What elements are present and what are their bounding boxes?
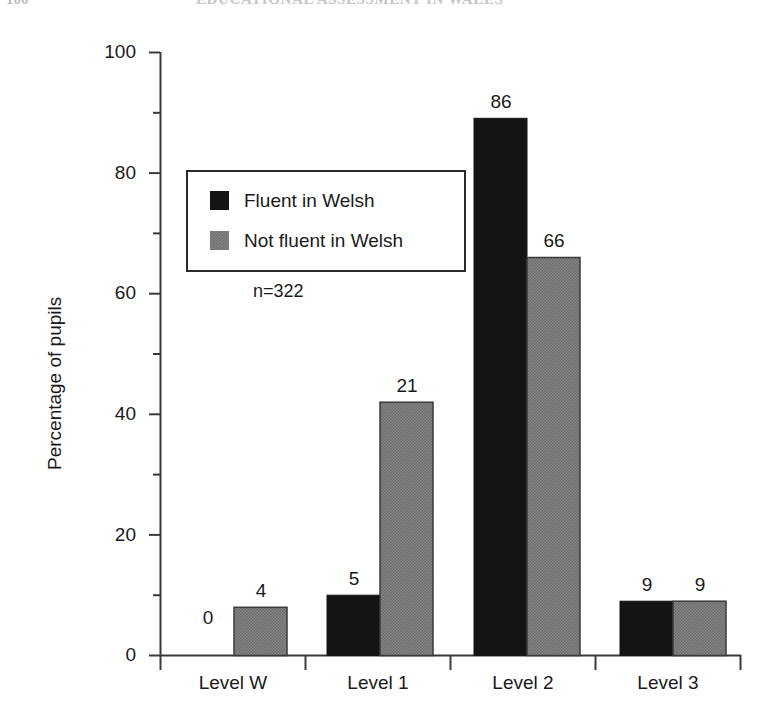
value-label-level-w-fluent: 0 [181, 607, 235, 629]
y-tick-label-80: 80 [90, 162, 136, 184]
value-label-level-2-fluent: 86 [474, 91, 528, 113]
y-tick-label-100: 100 [90, 41, 136, 63]
legend-swatch-black-icon [210, 191, 229, 210]
sample-size-annotation: n=322 [253, 281, 304, 302]
value-label-level-1-fluent: 5 [327, 568, 381, 590]
x-tick-label-level-3: Level 3 [588, 672, 748, 694]
x-tick-label-level-2: Level 2 [443, 672, 603, 694]
legend-label-not-fluent: Not fluent in Welsh [244, 230, 403, 252]
y-tick-label-20: 20 [90, 524, 136, 546]
bar-group-level-w [234, 607, 287, 655]
value-label-level-3-not-fluent: 9 [673, 574, 727, 596]
bar-chart-figure: Percentage of pupils 100 80 60 40 20 0 L… [0, 0, 781, 725]
bar-level-1-fluent [327, 595, 380, 655]
x-tick-label-level-1: Level 1 [298, 672, 458, 694]
y-tick-label-40: 40 [90, 403, 136, 425]
legend-label-fluent: Fluent in Welsh [244, 190, 375, 212]
y-axis-minor-ticks [153, 113, 160, 595]
bar-group-level-2 [474, 118, 580, 655]
value-label-level-3-fluent: 9 [620, 574, 674, 596]
y-tick-label-60: 60 [90, 282, 136, 304]
y-tick-label-0: 0 [90, 644, 136, 666]
chart-legend: Fluent in Welsh Not fluent in Welsh [186, 170, 466, 272]
x-tick-label-level-w: Level W [153, 672, 313, 694]
bar-level-3-fluent [620, 601, 673, 655]
legend-swatch-grey-icon [210, 231, 229, 250]
bar-level-2-fluent [474, 118, 527, 655]
value-label-level-w-not-fluent: 4 [234, 580, 288, 602]
bar-level-w-not-fluent [234, 607, 287, 655]
bar-group-level-3 [620, 601, 726, 655]
bar-level-2-not-fluent [527, 258, 580, 656]
chart-canvas [0, 0, 781, 725]
value-label-level-2-not-fluent: 66 [527, 230, 581, 252]
x-axis-ticks [161, 655, 741, 670]
bar-level-3-not-fluent [673, 601, 726, 655]
bar-group-level-1 [327, 402, 433, 655]
bar-level-1-not-fluent [380, 402, 433, 655]
value-label-level-1-not-fluent: 21 [380, 375, 434, 397]
y-axis-title: Percentage of pupils [44, 297, 66, 470]
